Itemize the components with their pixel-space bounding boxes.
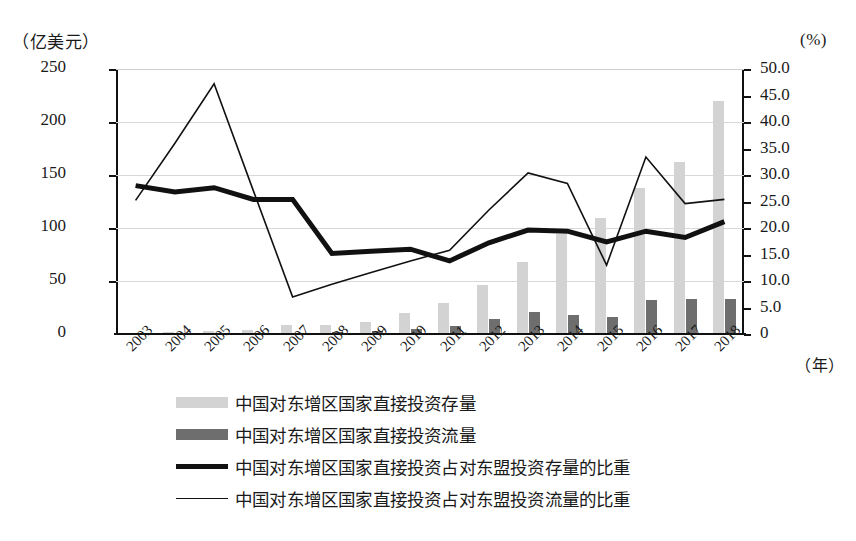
right-axis-unit-label: (%)	[800, 30, 827, 50]
right-axis-tick-label: 35.0	[760, 138, 790, 158]
chart-legend: 中国对东增区国家直接投资存量中国对东增区国家直接投资流量中国对东增区国家直接投资…	[176, 386, 776, 514]
right-axis-tickmark	[744, 69, 751, 71]
x-axis-unit-label: （年）	[795, 352, 845, 376]
left-axis-tick-label: 0	[6, 322, 66, 342]
left-axis-tickmark	[109, 69, 116, 71]
legend-label: 中国对东增区国家直接投资占对东盟投资存量的比重	[235, 454, 631, 479]
legend-thick-line	[176, 464, 228, 469]
right-axis-tickmark	[744, 281, 751, 283]
left-axis-unit-label: （亿美元）	[12, 28, 100, 53]
left-axis-tickmark	[109, 281, 116, 283]
right-axis-tickmark	[744, 149, 751, 151]
legend-dark-swatch	[176, 429, 228, 440]
right-axis-tick-label: 0	[760, 323, 769, 343]
left-axis-tickmark	[109, 175, 116, 177]
line-series-group	[116, 69, 744, 334]
legend-light-swatch	[176, 397, 228, 408]
legend-item: 中国对东增区国家直接投资存量	[176, 386, 776, 418]
left-axis-tickmark	[109, 228, 116, 230]
left-axis-tick-label: 200	[6, 110, 66, 130]
left-axis-tickmark	[109, 122, 116, 124]
legend-label: 中国对东增区国家直接投资流量	[235, 422, 476, 447]
plot-area	[116, 69, 744, 334]
right-axis-tick-label: 45.0	[760, 85, 790, 105]
right-axis-tick-label: 30.0	[760, 164, 790, 184]
line-stock-share	[136, 186, 725, 261]
right-axis-tickmark	[744, 255, 751, 257]
chart-figure: （亿美元） (%) （年） 250200150100500 50.045.040…	[0, 0, 856, 541]
legend-label: 中国对东增区国家直接投资占对东盟投资流量的比重	[235, 486, 631, 511]
right-axis-tickmark	[744, 175, 751, 177]
right-axis-tick-label: 15.0	[760, 244, 790, 264]
legend-item: 中国对东增区国家直接投资流量	[176, 418, 776, 450]
legend-item: 中国对东增区国家直接投资占对东盟投资存量的比重	[176, 450, 776, 482]
right-axis-tick-label: 10.0	[760, 270, 790, 290]
legend-item: 中国对东增区国家直接投资占对东盟投资流量的比重	[176, 482, 776, 514]
left-axis-tick-label: 250	[6, 57, 66, 77]
right-axis-tick-label: 25.0	[760, 191, 790, 211]
right-axis-tick-label: 40.0	[760, 111, 790, 131]
legend-label: 中国对东增区国家直接投资存量	[235, 390, 476, 415]
right-axis-tickmark	[744, 122, 751, 124]
right-axis-tickmark	[744, 202, 751, 204]
left-axis-tick-label: 150	[6, 163, 66, 183]
right-axis-tick-label: 50.0	[760, 58, 790, 78]
legend-thin-line	[176, 498, 228, 499]
right-axis-tickmark	[744, 308, 751, 310]
left-axis-tick-label: 50	[6, 269, 66, 289]
right-axis-tickmark	[744, 228, 751, 230]
right-axis-tick-label: 5.0	[760, 297, 781, 317]
left-axis-tick-label: 100	[6, 216, 66, 236]
right-axis-tickmark	[744, 96, 751, 98]
right-axis-tick-label: 20.0	[760, 217, 790, 237]
